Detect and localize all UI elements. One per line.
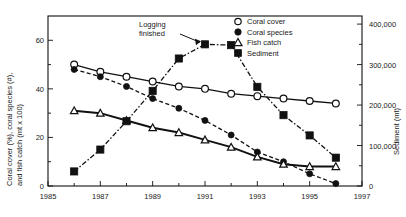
data-point-filled-circle (176, 105, 182, 111)
data-point-open-circle (175, 83, 182, 90)
y2-tick-label: 0 (369, 182, 373, 191)
legend-label: Sediment (247, 49, 280, 58)
annotation-text-line1: Logging (139, 20, 166, 29)
data-point-filled-square (97, 146, 104, 153)
data-point-filled-circle (228, 132, 234, 138)
data-point-open-circle (123, 73, 130, 80)
x-tick-label: 1985 (40, 192, 57, 201)
y2-tick-label: 400,000 (369, 20, 396, 29)
legend-marker-open-circle (235, 18, 241, 24)
legend-item-sediment: Sediment (235, 49, 280, 58)
data-point-filled-square (280, 112, 287, 119)
chart-container: 1985198719891991199319951997 0204060 010… (0, 0, 406, 217)
x-tick-label: 1991 (197, 192, 214, 201)
data-point-filled-square (254, 83, 261, 90)
data-point-filled-square (149, 87, 156, 94)
y-axis-left-title-line2: and fish catch (mt x 100) (15, 103, 24, 186)
data-point-open-circle (149, 78, 156, 85)
y-axis-left-title-line1: Coral cover (%), coral species (#), (5, 73, 14, 186)
annotation-text-line2: finished (139, 29, 165, 38)
x-tick-label: 1997 (354, 192, 371, 201)
data-point-open-circle (228, 90, 235, 97)
y-tick-label: 20 (36, 133, 44, 142)
data-point-open-circle (254, 93, 261, 100)
data-point-open-circle (280, 95, 287, 102)
data-point-open-circle (332, 100, 339, 107)
data-point-filled-square (123, 118, 130, 125)
legend-marker-filled-square (235, 50, 242, 57)
data-point-filled-square (201, 41, 208, 48)
data-point-filled-circle (202, 117, 208, 123)
data-point-open-circle (202, 85, 209, 92)
data-point-filled-circle (71, 66, 77, 72)
chart-background (0, 0, 406, 217)
x-tick-label: 1989 (144, 192, 161, 201)
data-point-filled-circle (150, 96, 156, 102)
x-tick-label: 1993 (249, 192, 266, 201)
legend-label: Fish catch (247, 38, 281, 47)
legend-label: Coral cover (247, 17, 286, 26)
data-point-open-circle (306, 98, 313, 105)
data-point-filled-circle (124, 83, 130, 89)
y-tick-label: 60 (36, 36, 44, 45)
data-point-filled-square (175, 55, 182, 62)
y-tick-label: 40 (36, 85, 44, 94)
data-point-filled-circle (333, 181, 339, 187)
data-point-filled-circle (97, 74, 103, 80)
legend-marker-filled-circle (235, 29, 241, 35)
coral-reef-line-chart: 1985198719891991199319951997 0204060 010… (0, 0, 406, 217)
x-tick-label: 1987 (92, 192, 109, 201)
y-tick-label: 0 (40, 182, 44, 191)
data-point-filled-square (71, 168, 78, 175)
data-point-filled-square (306, 132, 313, 139)
data-point-filled-circle (307, 171, 313, 177)
data-point-filled-square (332, 154, 339, 161)
y-axis-right-title: Sediment (mt) (392, 107, 401, 155)
y2-tick-label: 300,000 (369, 61, 396, 70)
x-tick-label: 1995 (301, 192, 318, 201)
legend-label: Coral species (247, 28, 293, 37)
